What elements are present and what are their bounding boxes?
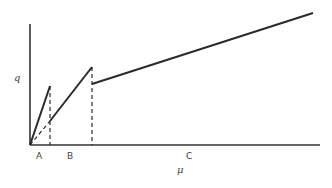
piecewise-diagram: [0, 0, 332, 188]
segment-c: [92, 13, 313, 84]
dashed-extension: [30, 121, 50, 145]
x-axis-label: μ: [177, 164, 184, 175]
region-a-label: A: [36, 151, 42, 161]
segment-a: [30, 86, 50, 145]
y-axis-label: q: [14, 72, 20, 83]
segment-b: [50, 67, 92, 121]
region-b-label: B: [67, 151, 73, 161]
region-c-label: C: [186, 151, 192, 161]
